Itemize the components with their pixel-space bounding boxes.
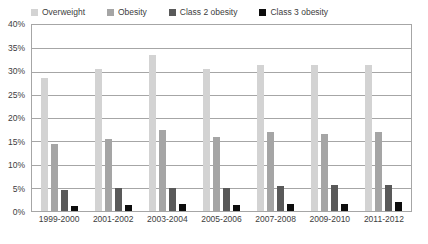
bar[interactable] (311, 65, 318, 211)
bar[interactable] (105, 139, 112, 211)
bar-group (140, 25, 194, 211)
bar-group (357, 25, 411, 211)
legend-swatch-icon (259, 9, 266, 16)
legend-label: Class 3 obesity (270, 8, 328, 17)
legend-label: Overweight (42, 8, 85, 17)
bar[interactable] (267, 132, 274, 211)
bar[interactable] (385, 185, 392, 212)
bar[interactable] (321, 134, 328, 211)
bar[interactable] (287, 204, 294, 211)
bar[interactable] (375, 132, 382, 211)
bar[interactable] (61, 190, 68, 211)
bar[interactable] (233, 205, 240, 211)
legend-item[interactable]: Class 2 obesity (169, 8, 238, 17)
bar[interactable] (71, 206, 78, 211)
y-axis-tick-label: 0% (13, 207, 25, 217)
bar[interactable] (257, 65, 264, 211)
bar-group (194, 25, 248, 211)
x-axis-tick-label: 2007-2008 (249, 214, 303, 232)
x-axis-tick-label: 1999-2000 (32, 214, 86, 232)
y-axis-tick-label: 15% (8, 137, 25, 147)
bar-group (249, 25, 303, 211)
x-axis: 1999-20002001-20022003-20042005-20062007… (32, 214, 411, 232)
y-axis-tick-label: 10% (8, 160, 25, 170)
bar[interactable] (223, 188, 230, 211)
y-axis-tick-label: 5% (13, 184, 25, 194)
legend-label: Class 2 obesity (180, 8, 238, 17)
y-axis: 0%5%10%15%20%25%30%35%40% (0, 24, 29, 212)
bar[interactable] (179, 204, 186, 211)
legend-item[interactable]: Obesity (107, 8, 147, 17)
legend-item[interactable]: Overweight (31, 8, 85, 17)
bar[interactable] (365, 65, 372, 211)
bar[interactable] (203, 69, 210, 211)
bar[interactable] (51, 144, 58, 211)
chart-legend: OverweightObesityClass 2 obesityClass 3 … (31, 4, 413, 20)
legend-item[interactable]: Class 3 obesity (259, 8, 328, 17)
y-axis-tick-label: 35% (8, 43, 25, 53)
y-axis-tick-label: 20% (8, 113, 25, 123)
bar[interactable] (149, 55, 156, 211)
bar-group (86, 25, 140, 211)
bar-group (303, 25, 357, 211)
bar[interactable] (95, 69, 102, 211)
x-axis-tick-label: 2009-2010 (303, 214, 357, 232)
x-axis-tick-label: 2001-2002 (86, 214, 140, 232)
legend-swatch-icon (31, 9, 38, 16)
bar-group (32, 25, 86, 211)
y-axis-tick-label: 40% (8, 19, 25, 29)
bars-layer (32, 25, 411, 211)
legend-label: Obesity (118, 8, 147, 17)
bar[interactable] (277, 186, 284, 211)
x-axis-tick-label: 2003-2004 (140, 214, 194, 232)
legend-swatch-icon (169, 9, 176, 16)
x-axis-tick-label: 2005-2006 (194, 214, 248, 232)
bar[interactable] (213, 137, 220, 211)
bar[interactable] (159, 130, 166, 211)
bar[interactable] (169, 188, 176, 211)
legend-swatch-icon (107, 9, 114, 16)
bar[interactable] (115, 188, 122, 211)
y-axis-tick-label: 30% (8, 66, 25, 76)
bar[interactable] (395, 202, 402, 211)
bar-chart: OverweightObesityClass 2 obesityClass 3 … (0, 0, 428, 244)
bar[interactable] (341, 204, 348, 211)
bar[interactable] (331, 185, 338, 212)
x-axis-tick-label: 2011-2012 (357, 214, 411, 232)
y-axis-tick-label: 25% (8, 90, 25, 100)
bar[interactable] (41, 78, 48, 211)
bar[interactable] (125, 205, 132, 211)
